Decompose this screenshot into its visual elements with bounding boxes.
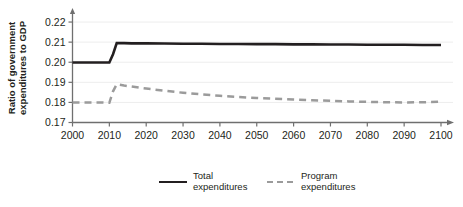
legend-item-program-expenditures: Program expenditures xyxy=(267,171,355,192)
legend-swatch-solid-line-icon xyxy=(159,177,187,187)
series-line-total-expenditures xyxy=(73,43,442,62)
chart-legend: Total expenditures Program expenditures xyxy=(0,163,463,207)
plot-area: 0.170.180.190.200.210.22 200020102020203… xyxy=(0,0,463,163)
x-axis-tick-label: 2050 xyxy=(245,129,269,141)
x-axis-tick-label: 2020 xyxy=(135,129,159,141)
x-axis-tick-label: 2060 xyxy=(282,129,306,141)
y-axis-tick-label: 0.20 xyxy=(45,56,66,68)
y-axis-tick-label: 0.17 xyxy=(45,116,66,128)
legend-label-total-line1: Total xyxy=(193,171,247,182)
y-axis-tick-label: 0.21 xyxy=(45,36,66,48)
x-axis-tick-label: 2070 xyxy=(319,129,343,141)
y-axis-tick-label: 0.18 xyxy=(45,96,66,108)
y-axis-tick-label: 0.22 xyxy=(45,16,66,28)
x-axis-arrowhead xyxy=(447,120,454,125)
x-axis-tick-label: 2010 xyxy=(98,129,122,141)
x-axis-tick-label: 2030 xyxy=(171,129,195,141)
y-axis-arrowhead xyxy=(70,8,75,14)
legend-label-program-line2: expenditures xyxy=(301,182,355,193)
x-axis-tick-label: 2000 xyxy=(61,129,85,141)
x-axis-tick-label: 2090 xyxy=(392,129,416,141)
x-axis-tick-labels: 2000201020202030204020502060207020802090… xyxy=(61,129,453,141)
legend-item-total-expenditures: Total expenditures xyxy=(159,171,247,192)
x-axis-tick-label: 2040 xyxy=(208,129,232,141)
series-line-program-expenditures xyxy=(73,84,442,102)
legend-label-total-line2: expenditures xyxy=(193,182,247,193)
legend-swatch-dashed-line-icon xyxy=(267,177,295,187)
y-axis-tick-labels: 0.170.180.190.200.210.22 xyxy=(45,16,66,128)
legend-label-program-line1: Program xyxy=(301,171,355,182)
y-axis-tick-label: 0.19 xyxy=(45,76,66,88)
grid-lines xyxy=(73,22,454,102)
chart-figure: Ratio of government expenditures to GDP … xyxy=(0,0,463,207)
x-axis-tick-label: 2080 xyxy=(356,129,380,141)
x-axis-tick-label: 2100 xyxy=(429,129,453,141)
